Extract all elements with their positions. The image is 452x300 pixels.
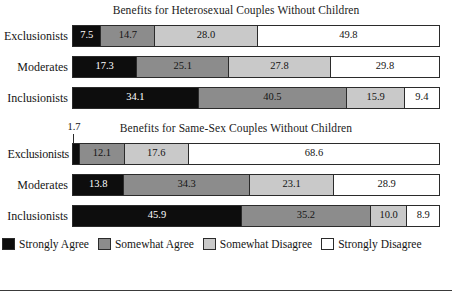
legend-label: Somewhat Disagree bbox=[220, 238, 312, 251]
bar-segment-somewhat-disagree[interactable]: 23.1 bbox=[249, 175, 333, 195]
segment-value: 7.5 bbox=[80, 30, 93, 41]
stacked-bar: 13.8 34.3 23.1 28.9 bbox=[72, 174, 440, 196]
bar-segment-somewhat-agree[interactable]: 25.1 bbox=[136, 57, 228, 77]
bar-segment-somewhat-agree[interactable]: 35.2 bbox=[241, 206, 370, 226]
segment-value: 17.6 bbox=[147, 148, 165, 159]
legend-swatch-icon bbox=[98, 238, 111, 250]
stacked-bar: 12.1 17.6 68.6 bbox=[72, 143, 440, 165]
bar-segment-strongly-disagree[interactable]: 8.9 bbox=[406, 206, 439, 226]
legend-label: Strongly Disagree bbox=[338, 238, 421, 251]
segment-value: 27.8 bbox=[270, 61, 288, 72]
stacked-bar: 17.3 25.1 27.8 29.8 bbox=[72, 56, 440, 78]
legend-swatch-icon bbox=[2, 238, 15, 250]
bar-segment-somewhat-disagree[interactable]: 28.0 bbox=[154, 26, 256, 46]
bar-segment-strongly-disagree[interactable]: 49.8 bbox=[257, 26, 439, 46]
callout-value: 1.7 bbox=[60, 121, 88, 133]
stacked-bar: 45.9 35.2 10.0 8.9 bbox=[72, 205, 440, 227]
bar-segment-strongly-disagree[interactable]: 28.9 bbox=[333, 175, 439, 195]
bar-segment-somewhat-disagree[interactable]: 17.6 bbox=[124, 144, 188, 164]
bar-segment-strongly-agree[interactable]: 17.3 bbox=[73, 57, 136, 77]
legend-item-somewhat-agree[interactable]: Somewhat Agree bbox=[98, 238, 194, 251]
legend-swatch-icon bbox=[321, 238, 334, 250]
legend-item-somewhat-disagree[interactable]: Somewhat Disagree bbox=[203, 238, 312, 251]
bar-segment-somewhat-agree[interactable]: 12.1 bbox=[79, 144, 123, 164]
row-label: Moderates bbox=[0, 60, 72, 74]
legend-label: Strongly Agree bbox=[19, 238, 89, 251]
bar-segment-strongly-agree[interactable]: 7.5 bbox=[73, 26, 100, 46]
bar-segment-strongly-disagree[interactable]: 9.4 bbox=[404, 88, 438, 108]
segment-value: 28.0 bbox=[197, 30, 215, 41]
legend-item-strongly-agree[interactable]: Strongly Agree bbox=[2, 238, 89, 251]
row-label: Moderates bbox=[0, 178, 72, 192]
chart-panel-same-sex: Benefits for Same-Sex Couples Without Ch… bbox=[0, 113, 452, 231]
legend-label: Somewhat Agree bbox=[115, 238, 194, 251]
bar-segment-strongly-agree[interactable]: 45.9 bbox=[73, 206, 241, 226]
row-label: Inclusionists bbox=[0, 91, 72, 105]
bar-segment-somewhat-agree[interactable]: 14.7 bbox=[100, 26, 154, 46]
bar-rows-same-sex: Exclusionists 12.1 17.6 68.6 Moderates bbox=[0, 138, 452, 231]
legend-item-strongly-disagree[interactable]: Strongly Disagree bbox=[321, 238, 421, 251]
bar-segment-strongly-agree[interactable]: 34.1 bbox=[73, 88, 198, 108]
segment-value: 13.8 bbox=[89, 179, 107, 190]
segment-value: 12.1 bbox=[93, 148, 111, 159]
bar-rows-heterosexual: Exclusionists 7.5 14.7 28.0 49.8 bbox=[0, 20, 452, 113]
bar-row: Moderates 17.3 25.1 27.8 29.8 bbox=[0, 51, 452, 82]
segment-value: 40.5 bbox=[263, 92, 281, 103]
bar-segment-somewhat-agree[interactable]: 40.5 bbox=[198, 88, 346, 108]
bar-row: Inclusionists 34.1 40.5 15.9 9.4 bbox=[0, 82, 452, 113]
segment-value: 14.7 bbox=[119, 30, 137, 41]
segment-value: 23.1 bbox=[282, 179, 300, 190]
bar-segment-strongly-disagree[interactable]: 68.6 bbox=[188, 144, 439, 164]
stacked-bar: 7.5 14.7 28.0 49.8 bbox=[72, 25, 440, 47]
bar-segment-somewhat-agree[interactable]: 34.3 bbox=[123, 175, 248, 195]
segment-value: 9.4 bbox=[415, 92, 428, 103]
legend-swatch-icon bbox=[203, 238, 216, 250]
chart-panel-heterosexual: Benefits for Heterosexual Couples Withou… bbox=[0, 0, 452, 113]
segment-value: 28.9 bbox=[377, 179, 395, 190]
stacked-bar: 34.1 40.5 15.9 9.4 bbox=[72, 87, 440, 109]
row-label: Exclusionists bbox=[0, 29, 72, 43]
segment-value: 25.1 bbox=[174, 61, 192, 72]
bar-row: Moderates 13.8 34.3 23.1 28.9 bbox=[0, 169, 452, 200]
segment-value: 17.3 bbox=[95, 61, 113, 72]
stacked-bar-figure: Benefits for Heterosexual Couples Withou… bbox=[0, 0, 452, 300]
chart-title-heterosexual: Benefits for Heterosexual Couples Withou… bbox=[0, 3, 452, 17]
segment-value: 49.8 bbox=[339, 30, 357, 41]
row-label: Exclusionists bbox=[0, 147, 72, 161]
bar-segment-strongly-agree[interactable]: 13.8 bbox=[73, 175, 123, 195]
bar-segment-somewhat-disagree[interactable]: 10.0 bbox=[370, 206, 407, 226]
bar-row: Exclusionists 12.1 17.6 68.6 bbox=[0, 138, 452, 169]
bar-segment-strongly-disagree[interactable]: 29.8 bbox=[330, 57, 439, 77]
segment-value: 45.9 bbox=[148, 210, 166, 221]
bar-segment-somewhat-disagree[interactable]: 15.9 bbox=[346, 88, 404, 108]
bar-segment-somewhat-disagree[interactable]: 27.8 bbox=[228, 57, 330, 77]
segment-value: 34.1 bbox=[126, 92, 144, 103]
bar-row: Inclusionists 45.9 35.2 10.0 8.9 bbox=[0, 200, 452, 231]
bar-row: Exclusionists 7.5 14.7 28.0 49.8 bbox=[0, 20, 452, 51]
row-label: Inclusionists bbox=[0, 209, 72, 223]
segment-value: 8.9 bbox=[417, 210, 430, 221]
bottom-divider bbox=[0, 290, 452, 291]
segment-value: 34.3 bbox=[177, 179, 195, 190]
segment-value: 35.2 bbox=[297, 210, 315, 221]
segment-value: 29.8 bbox=[376, 61, 394, 72]
segment-value: 68.6 bbox=[305, 148, 323, 159]
chart-legend: Strongly Agree Somewhat Agree Somewhat D… bbox=[0, 234, 452, 254]
segment-value: 10.0 bbox=[379, 210, 397, 221]
segment-value: 15.9 bbox=[366, 92, 384, 103]
